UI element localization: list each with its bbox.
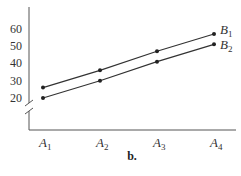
line-chart: 2030405060 A1A2A3A4 B1B2 b.	[0, 0, 241, 176]
data-point	[98, 68, 102, 72]
data-point	[41, 86, 45, 90]
y-tick-label: 30	[10, 74, 22, 88]
y-tick-label: 20	[10, 91, 22, 105]
x-category-label: A2	[95, 135, 108, 152]
data-point	[98, 79, 102, 83]
series-b1: B1	[41, 22, 232, 90]
x-category-label: A3	[152, 135, 166, 152]
series-group: B1B2	[41, 22, 232, 100]
data-point	[41, 96, 45, 100]
series-b2: B2	[41, 37, 232, 100]
y-tick-label: 50	[10, 39, 22, 53]
data-point	[212, 42, 216, 46]
data-point	[155, 49, 159, 53]
y-tick-label: 60	[10, 22, 22, 36]
series-label: B2	[220, 37, 232, 54]
series-line	[43, 44, 214, 98]
x-category-label: A4	[209, 135, 223, 152]
x-category-label: A1	[38, 135, 51, 152]
data-point	[155, 60, 159, 64]
y-tick-label: 40	[10, 56, 22, 70]
chart-caption: b.	[127, 149, 137, 163]
data-point	[212, 32, 216, 36]
y-tick-labels: 2030405060	[10, 22, 22, 105]
series-line	[43, 34, 214, 88]
